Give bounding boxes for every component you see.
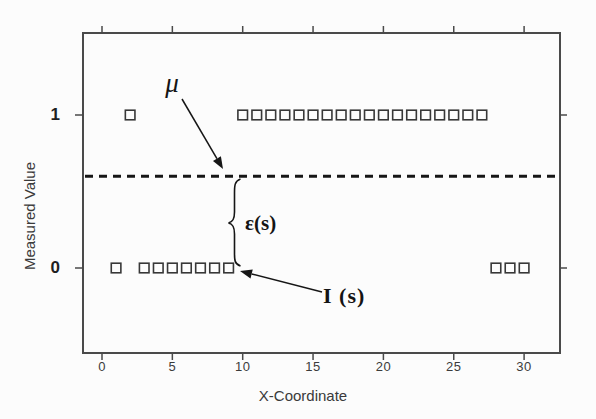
epsilon-brace: [229, 179, 241, 266]
data-point-square: [322, 110, 332, 120]
data-point-square: [252, 110, 262, 120]
data-point-square: [308, 110, 318, 120]
indicator-annotation: I (s): [323, 283, 365, 309]
x-tick-label: 0: [87, 360, 117, 374]
data-point-square: [280, 110, 290, 120]
x-tick-label: 20: [368, 360, 398, 374]
mu-annotation: μ: [152, 68, 192, 99]
indicator-arrow-head: [240, 270, 253, 279]
indicator-arrow-shaft: [252, 274, 322, 292]
data-point-square: [196, 263, 206, 273]
mu-arrow-head: [213, 156, 223, 169]
data-point-square: [111, 263, 121, 273]
data-point-square: [238, 110, 248, 120]
data-point-square: [407, 110, 417, 120]
data-point-square: [210, 263, 220, 273]
data-point-square: [224, 263, 234, 273]
y-axis-title: Measured Value: [21, 156, 39, 276]
data-point-square: [491, 263, 501, 273]
x-tick-label: 15: [298, 360, 328, 374]
data-point-square: [519, 263, 529, 273]
y-tick-label: 1: [34, 106, 60, 123]
x-axis-title: X-Coordinate: [233, 387, 373, 404]
data-point-square: [153, 263, 163, 273]
epsilon-annotation: ε(s): [245, 211, 276, 236]
x-tick-label: 25: [439, 360, 469, 374]
x-tick-label: 30: [509, 360, 539, 374]
data-point-square: [421, 110, 431, 120]
data-point-square: [463, 110, 473, 120]
y-tick-label: 0: [34, 259, 60, 276]
data-point-square: [393, 110, 403, 120]
figure-root: Measured Value X-Coordinate μ ε(s) I (s)…: [0, 0, 596, 419]
data-point-square: [449, 110, 459, 120]
data-point-square: [336, 110, 346, 120]
x-tick-label: 10: [228, 360, 258, 374]
data-point-square: [350, 110, 360, 120]
data-point-square: [139, 263, 149, 273]
data-point-square: [168, 263, 178, 273]
x-tick-label: 5: [157, 360, 187, 374]
plot-canvas: [0, 0, 596, 419]
data-point-square: [294, 110, 304, 120]
data-point-square: [505, 263, 515, 273]
data-point-square: [266, 110, 276, 120]
data-point-square: [125, 110, 135, 120]
data-point-square: [365, 110, 375, 120]
data-point-square: [379, 110, 389, 120]
data-point-square: [477, 110, 487, 120]
data-point-square: [435, 110, 445, 120]
data-point-square: [182, 263, 192, 273]
mu-arrow-shaft: [182, 99, 217, 159]
